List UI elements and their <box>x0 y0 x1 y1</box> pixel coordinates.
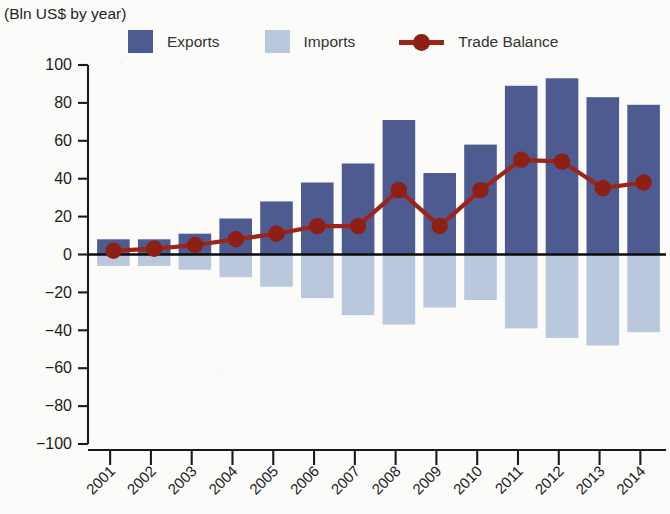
x-tick-label-2003: 2003 <box>164 462 200 498</box>
x-tick-label-2013: 2013 <box>572 462 608 498</box>
imports-bar-group <box>97 255 660 346</box>
trade-balance-point-2002 <box>146 241 162 257</box>
bar-imports-2011 <box>505 255 538 329</box>
y-tick-label-40: 40 <box>54 170 72 187</box>
y-tick-label--20: −20 <box>45 284 72 301</box>
bar-imports-2007 <box>342 255 375 316</box>
trade-balance-point-2007 <box>350 218 366 234</box>
x-tick-label-2012: 2012 <box>531 462 567 498</box>
trade-balance-point-2011 <box>513 152 529 168</box>
trade-balance-point-2008 <box>391 182 407 198</box>
y-tick-label--100: −100 <box>36 435 72 452</box>
x-tick-label-2005: 2005 <box>246 462 282 498</box>
y-tick-label-20: 20 <box>54 208 72 225</box>
exports-bar-group <box>97 78 660 254</box>
x-tick-label-2011: 2011 <box>491 462 526 497</box>
bar-exports-2007 <box>342 164 375 255</box>
bar-imports-2010 <box>464 255 497 301</box>
trade-balance-point-2003 <box>187 237 203 253</box>
x-tick-label-2008: 2008 <box>368 462 404 498</box>
trade-balance-point-2005 <box>268 226 284 242</box>
trade-balance-point-2012 <box>554 153 570 169</box>
y-tick-label-60: 60 <box>54 132 72 149</box>
bar-imports-2013 <box>587 255 620 346</box>
trade-balance-point-2001 <box>105 243 121 259</box>
x-tick-label-2001: 2001 <box>83 462 119 498</box>
chart-canvas: 100806040200−20−40−60−80−100 20012002200… <box>0 0 670 514</box>
y-tick-label-100: 100 <box>45 56 72 73</box>
trade-balance-point-2009 <box>432 218 448 234</box>
x-tick-label-2002: 2002 <box>123 462 159 498</box>
x-tick-label-2009: 2009 <box>409 462 445 498</box>
y-tick-label--80: −80 <box>45 397 72 414</box>
x-tick-label-2010: 2010 <box>450 462 486 498</box>
bar-imports-2003 <box>179 255 212 270</box>
bar-imports-2014 <box>627 255 660 333</box>
chart-plot-area: 100806040200−20−40−60−80−100 20012002200… <box>0 0 670 514</box>
x-tick-label-2007: 2007 <box>327 462 363 498</box>
trade-balance-point-2006 <box>309 218 325 234</box>
trade-balance-point-2004 <box>228 231 244 247</box>
y-tick-label-0: 0 <box>63 246 72 263</box>
x-tick-label-2014: 2014 <box>613 462 649 498</box>
trade-balance-point-2014 <box>635 174 651 190</box>
bar-imports-2008 <box>383 255 416 325</box>
bar-imports-2004 <box>219 255 252 278</box>
y-tick-label-80: 80 <box>54 94 72 111</box>
bar-exports-2013 <box>587 97 620 254</box>
bar-imports-2005 <box>260 255 293 287</box>
y-tick-label--60: −60 <box>45 359 72 376</box>
trade-balance-point-2013 <box>595 180 611 196</box>
bar-imports-2006 <box>301 255 334 299</box>
x-axis-tick-group: 2001200220032004200520062007200820092010… <box>83 450 666 498</box>
y-tick-label--40: −40 <box>45 322 72 339</box>
bar-imports-2012 <box>546 255 579 338</box>
x-tick-label-2006: 2006 <box>287 462 323 498</box>
trade-balance-point-2010 <box>472 182 488 198</box>
bar-imports-2009 <box>423 255 456 308</box>
x-tick-label-2004: 2004 <box>205 462 241 498</box>
